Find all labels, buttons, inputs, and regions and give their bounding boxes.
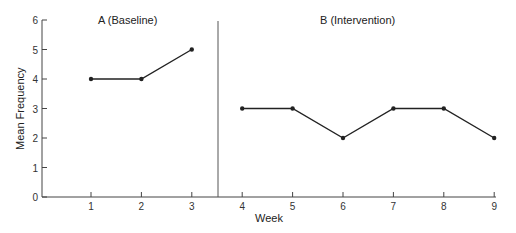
x-tick-label: 1 <box>88 201 94 212</box>
y-tick-label: 6 <box>32 15 38 26</box>
x-tick-label: 7 <box>391 201 397 212</box>
x-tick-label: 4 <box>239 201 245 212</box>
data-point <box>139 77 143 81</box>
tick-labels: 0123456123456789 <box>32 15 497 212</box>
x-tick-label: 6 <box>340 201 346 212</box>
x-tick-label: 2 <box>139 201 145 212</box>
x-tick-label: 8 <box>441 201 447 212</box>
x-tick-label: 5 <box>290 201 296 212</box>
y-tick-label: 0 <box>32 192 38 203</box>
y-tick-label: 2 <box>32 133 38 144</box>
y-tick-label: 3 <box>32 104 38 115</box>
phase-a-label: A (Baseline) <box>98 14 157 26</box>
data-point <box>492 136 496 140</box>
data-point <box>391 106 395 110</box>
x-tick-label: 3 <box>189 201 195 212</box>
ab-design-chart: 0123456123456789 A (Baseline) B (Interve… <box>0 0 516 233</box>
series-line <box>91 50 192 80</box>
data-point <box>290 106 294 110</box>
x-axis-label: Week <box>255 212 283 224</box>
series-line <box>242 109 494 139</box>
data-point <box>240 106 244 110</box>
data-point <box>341 136 345 140</box>
y-tick-label: 5 <box>32 45 38 56</box>
data-point <box>442 106 446 110</box>
data-series <box>89 47 497 140</box>
y-axis-label: Mean Frequency <box>14 67 26 150</box>
x-tick-label: 9 <box>491 201 497 212</box>
y-tick-label: 1 <box>32 163 38 174</box>
phase-b-label: B (Intervention) <box>320 14 395 26</box>
y-tick-label: 4 <box>32 74 38 85</box>
data-point <box>190 47 194 51</box>
data-point <box>89 77 93 81</box>
